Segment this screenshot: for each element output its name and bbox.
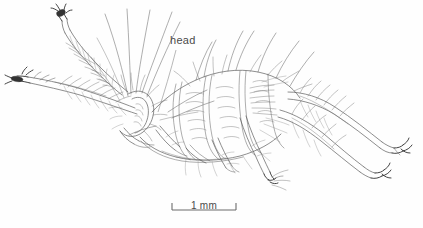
dorsal-bristles [91,9,180,101]
figure-panel: .ln { fill:none; stroke:#5d5d5d; stroke-… [0,0,423,228]
center-leg-short [212,138,239,172]
right-leg-lower [278,99,391,178]
setae-patch-posterior [250,76,289,142]
head-label: head [170,34,196,46]
right-leg-upper [288,78,412,155]
body-idiosoma [140,31,314,177]
right-leg-descending [240,116,290,190]
arthropod-line-drawing: .ln { fill:none; stroke:#5d5d5d; stroke-… [0,0,423,228]
scale-bar-label: 1 mm [172,200,236,211]
